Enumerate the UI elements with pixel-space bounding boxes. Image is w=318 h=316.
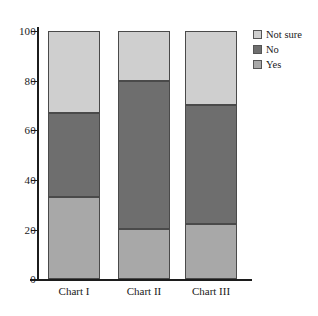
bar-segment-no-chart-ii[interactable] — [118, 81, 170, 230]
y-tick-label-100: 100 — [19, 26, 36, 37]
x-axis-line — [30, 279, 252, 281]
y-tick-label-60: 60 — [25, 125, 36, 136]
legend-swatch-no-icon — [253, 45, 262, 54]
legend-item-not-sure[interactable]: Not sure — [253, 28, 317, 41]
y-tick-label-20: 20 — [25, 225, 36, 236]
y-tick-label-0: 0 — [30, 274, 36, 285]
legend-swatch-not-sure-icon — [253, 30, 262, 39]
y-tick-label-80: 80 — [25, 76, 36, 87]
bar-segment-yes-chart-i[interactable] — [48, 197, 100, 279]
bar-chart-ii[interactable] — [118, 31, 170, 279]
legend-label-not-sure: Not sure — [266, 29, 302, 40]
x-axis-label-chart-i: Chart I — [34, 285, 114, 297]
plot-area — [38, 31, 248, 279]
y-tick-label-40: 40 — [25, 175, 36, 186]
legend-swatch-yes-icon — [253, 60, 262, 69]
legend-item-no[interactable]: No — [253, 43, 317, 56]
x-axis-label-chart-iii: Chart III — [171, 285, 251, 297]
legend: Not sure No Yes — [253, 28, 317, 73]
legend-label-yes: Yes — [266, 59, 281, 70]
bar-segment-not-sure-chart-ii[interactable] — [118, 31, 170, 81]
bar-chart-i[interactable] — [48, 31, 100, 279]
legend-label-no: No — [266, 44, 279, 55]
bar-segment-not-sure-chart-i[interactable] — [48, 31, 100, 113]
legend-item-yes[interactable]: Yes — [253, 58, 317, 71]
bar-segment-no-chart-i[interactable] — [48, 113, 100, 197]
bar-segment-no-chart-iii[interactable] — [185, 105, 237, 224]
bar-segment-yes-chart-iii[interactable] — [185, 224, 237, 279]
stacked-bar-chart: 100 80 60 40 20 0 Chart I Chart II Chart… — [0, 0, 318, 316]
bar-chart-iii[interactable] — [185, 31, 237, 279]
bar-segment-yes-chart-ii[interactable] — [118, 229, 170, 279]
bar-segment-not-sure-chart-iii[interactable] — [185, 31, 237, 105]
